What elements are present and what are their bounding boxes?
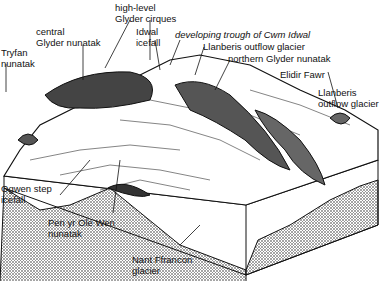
label-northern-glyder: northern Glyder nunatak — [228, 54, 330, 65]
label-line: Glyder nunatak — [36, 38, 100, 49]
label-line: outflow glacier — [318, 99, 379, 110]
central-glyder-nunatak — [45, 72, 153, 108]
label-line: nunatak — [1, 59, 35, 70]
label-nant-ffrancon: Nant Ffrancon glacier — [132, 255, 192, 276]
label-ogwen-step: Ogwen step icefall — [1, 184, 52, 205]
label-line: nunatak — [48, 229, 115, 240]
label-line: Llanberis — [318, 88, 379, 99]
label-llanberis-outflow-2: Llanberis outflow glacier — [318, 88, 379, 109]
label-line: icefall — [1, 195, 52, 206]
label-line: icefall — [136, 38, 160, 49]
label-elidir-fawr: Elidir Fawr — [280, 70, 325, 81]
label-pen-yr-ole-wen: Pen yr Ole Wen nunatak — [48, 218, 115, 239]
label-line: glacier — [132, 266, 192, 277]
label-tryfan: Tryfan nunatak — [1, 48, 35, 69]
label-line: Pen yr Ole Wen — [48, 218, 115, 229]
label-line: Glyder cirques — [115, 14, 176, 25]
label-developing-trough: developing trough of Cwm Idwal — [175, 30, 310, 41]
label-llanberis-outflow-1: Llanberis outflow glacier — [203, 42, 305, 53]
label-line: Ogwen step — [1, 184, 52, 195]
label-idwal-icefall: Idwal icefall — [136, 27, 160, 48]
label-line: Tryfan — [1, 48, 35, 59]
label-high-level-cirques: high-level Glyder cirques — [115, 3, 176, 24]
label-central-glyder: central Glyder nunatak — [36, 27, 100, 48]
label-line: high-level — [115, 3, 176, 14]
label-line: central — [36, 27, 100, 38]
label-line: Idwal — [136, 27, 160, 38]
label-line: Nant Ffrancon — [132, 255, 192, 266]
